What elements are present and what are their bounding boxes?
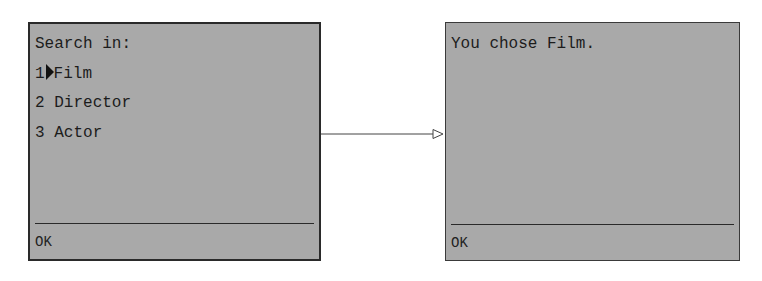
flow-arrow-icon [321,128,445,140]
softkey-divider [35,223,314,224]
menu-item-film[interactable]: 1Film [35,60,314,90]
menu-item-actor[interactable]: 3 Actor [35,119,314,149]
selection-pointer-icon [46,64,54,80]
search-menu-screen: Search in: 1Film 2 Director 3 Actor OK [28,22,321,261]
confirmation-message: You chose Film. [451,30,734,60]
menu-item-director[interactable]: 2 Director [35,89,314,119]
softkey-divider [451,224,734,225]
confirmation-screen: You chose Film. OK [445,22,740,261]
ok-softkey[interactable]: OK [451,235,468,251]
ok-softkey[interactable]: OK [35,234,52,250]
menu-title: Search in: [35,30,314,60]
